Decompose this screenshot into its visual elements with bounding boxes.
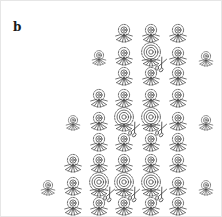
small-flower-icon [41, 181, 55, 195]
flower-icon [170, 154, 187, 172]
small-flower-icon [66, 116, 80, 130]
flower-icon [170, 89, 187, 107]
figure-panel: b [0, 0, 222, 217]
flower-icon [65, 197, 82, 215]
flower-icon [143, 133, 160, 151]
small-flower-icon [199, 116, 213, 130]
flower-icon [116, 133, 133, 151]
flower-icon [116, 47, 133, 65]
flower-icon [143, 24, 160, 42]
flower-icon [170, 177, 187, 195]
flower-icon [65, 154, 82, 172]
flower-icon [170, 47, 187, 65]
flower-icon [116, 154, 133, 172]
flower-icon [143, 89, 160, 107]
flower-icon [170, 67, 187, 85]
flower-icon [91, 133, 108, 151]
flower-icon [91, 112, 108, 130]
flower-icon [116, 89, 133, 107]
flower-icon [143, 154, 160, 172]
flower-icon [116, 24, 133, 42]
small-flower-icon [92, 51, 106, 65]
large-spiral-flower-icon [142, 43, 161, 66]
small-flower-icon [199, 52, 213, 66]
flower-icon [91, 154, 108, 172]
flower-field [1, 1, 222, 217]
small-flower-icon [199, 181, 213, 195]
large-spiral-flower-icon [142, 173, 161, 196]
flower-icon [65, 177, 82, 195]
flower-icon [91, 89, 108, 107]
large-spiral-flower-icon [115, 108, 134, 131]
flower-icon [170, 197, 187, 215]
flower-icon [170, 133, 187, 151]
large-spiral-flower-icon [90, 173, 109, 196]
large-spiral-flower-icon [115, 173, 134, 196]
flower-icon [170, 24, 187, 42]
flower-icon [116, 67, 133, 85]
large-spiral-flower-icon [142, 108, 161, 131]
flower-icon [170, 112, 187, 130]
